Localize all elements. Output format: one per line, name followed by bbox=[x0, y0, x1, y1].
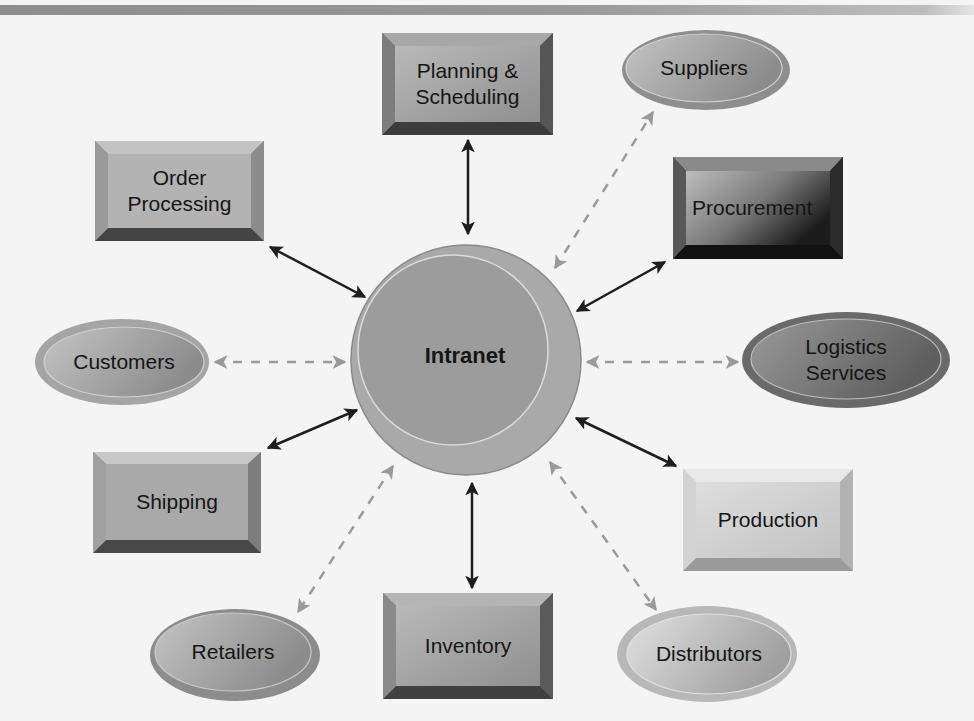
arrow-shipping bbox=[268, 410, 357, 448]
node-customers[interactable] bbox=[35, 319, 209, 405]
arrow-distributors bbox=[550, 462, 656, 610]
intranet-hub[interactable] bbox=[351, 245, 581, 475]
arrow-suppliers bbox=[555, 112, 653, 268]
intranet-diagram bbox=[0, 0, 974, 721]
arrow-order-processing bbox=[270, 247, 365, 297]
node-order-processing[interactable] bbox=[95, 141, 264, 241]
node-distributors[interactable] bbox=[617, 606, 797, 702]
node-shipping[interactable] bbox=[93, 452, 261, 553]
node-planning[interactable] bbox=[382, 33, 553, 135]
arrow-production bbox=[576, 418, 676, 466]
node-production[interactable] bbox=[683, 469, 853, 571]
node-suppliers[interactable] bbox=[622, 30, 790, 110]
node-procurement[interactable] bbox=[673, 157, 843, 259]
node-logistics[interactable] bbox=[742, 312, 950, 408]
node-retailers[interactable] bbox=[150, 609, 320, 701]
node-inventory[interactable] bbox=[383, 593, 553, 699]
arrow-procurement bbox=[577, 262, 665, 311]
arrow-retailers bbox=[298, 466, 393, 612]
